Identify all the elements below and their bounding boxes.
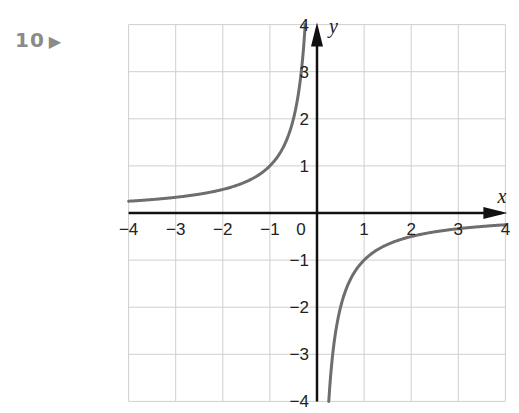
y-tick-label: −4 [290,392,309,411]
curve-branch-right [329,225,506,402]
y-tick-label: −1 [290,251,309,270]
x-tick-label: 3 [454,220,463,239]
x-tick-label: 2 [406,220,415,239]
x-tick-label: −2 [213,220,232,239]
x-axis-label: x [496,185,506,207]
curve-branch-left [129,25,306,202]
y-tick-label: 1 [300,157,309,176]
y-tick-label: 4 [300,16,309,35]
y-axis-arrow-icon [311,23,323,47]
y-axis-label: y [327,15,338,38]
x-axis-arrow-icon [483,207,507,219]
graph: −4−3−2−101234−4−3−2−11234xy [0,0,519,413]
y-tick-label: 2 [300,110,309,129]
x-tick-label: −4 [119,220,138,239]
x-tick-label: −1 [260,220,279,239]
y-tick-label: −3 [290,345,309,364]
y-tick-label: −2 [290,298,309,317]
x-tick-label: 0 [296,220,305,239]
x-tick-label: 1 [359,220,368,239]
x-tick-label: −3 [166,220,185,239]
x-tick-label: 4 [501,220,510,239]
y-tick-label: 3 [300,63,309,82]
